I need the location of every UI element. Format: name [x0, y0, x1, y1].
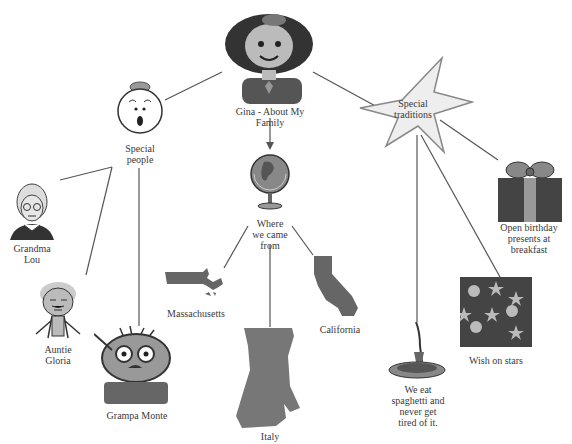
- node-label-spaghetti: We eat spaghetti and never get tired of …: [380, 384, 456, 428]
- spaghetti-plate-icon: [386, 322, 448, 382]
- node-label-auntie: Auntie Gloria: [28, 344, 88, 366]
- node-label-root: Gina - About My Family: [222, 106, 318, 128]
- massachusetts-map-icon: [163, 268, 225, 302]
- gift-icon: [496, 158, 564, 222]
- node-label-grandma: Grandma Lou: [2, 243, 62, 265]
- surprised-face-icon: [112, 75, 168, 135]
- italy-map-icon: [232, 326, 308, 430]
- night-sky-icon: [460, 277, 532, 347]
- node-label-italy: Italy: [240, 431, 300, 442]
- girl-portrait-icon: [222, 12, 316, 104]
- globe-icon: [248, 150, 292, 216]
- node-label-california: California: [308, 324, 372, 335]
- node-label-massachusetts: Massachusetts: [156, 308, 236, 319]
- california-map-icon: [312, 256, 362, 318]
- auntie-figure-icon: [30, 278, 86, 340]
- node-label-where: Where we came from: [240, 218, 300, 251]
- node-label-special-people: Special people: [110, 143, 170, 165]
- node-label-traditions: Special traditions: [378, 98, 448, 120]
- node-label-birthday: Open birthday presents at breakfast: [488, 222, 570, 255]
- node-label-grampa: Grampa Monte: [92, 410, 182, 421]
- node-label-stars: Wish on stars: [454, 355, 538, 366]
- concept-map: Gina - About My Family Special people Gr…: [0, 0, 572, 444]
- grampa-face-icon: [94, 326, 178, 404]
- grandma-portrait-icon: [8, 180, 56, 240]
